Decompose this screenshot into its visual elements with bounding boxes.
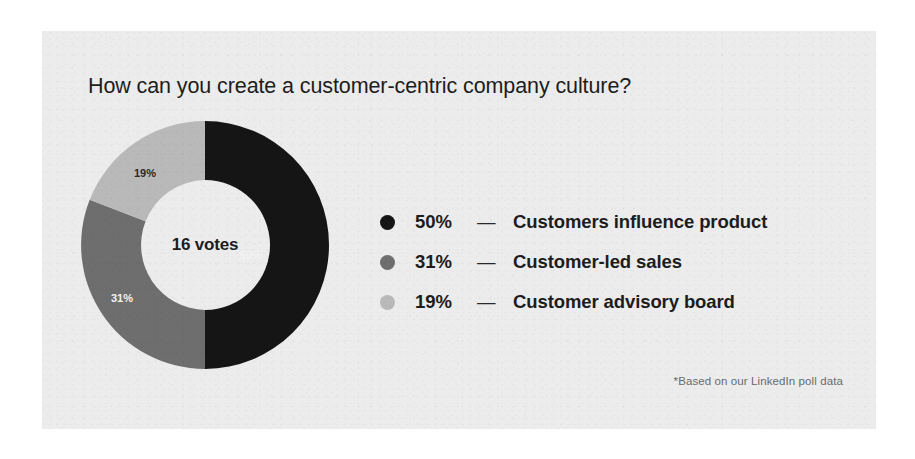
poll-card: How can you create a customer-centric co… xyxy=(42,31,876,429)
footnote-source: *Based on our LinkedIn poll data xyxy=(674,375,843,387)
legend-percent: 50% xyxy=(415,211,477,233)
donut-chart: 50% 31% 19% 16 votes xyxy=(79,119,331,371)
legend-dash: — xyxy=(477,251,513,273)
legend-label: Customer-led sales xyxy=(513,251,682,273)
legend-item-customer-advisory-board[interactable]: 19% — Customer advisory board xyxy=(380,282,850,322)
legend-percent: 19% xyxy=(415,291,477,313)
legend-label: Customer advisory board xyxy=(513,291,735,313)
legend-item-customer-led-sales[interactable]: 31% — Customer-led sales xyxy=(380,242,850,282)
donut-center-total: 16 votes xyxy=(79,119,331,371)
legend-dot-icon xyxy=(380,215,395,230)
legend-dot-icon xyxy=(380,295,395,310)
legend-percent: 31% xyxy=(415,251,477,273)
legend-label: Customers influence product xyxy=(513,211,767,233)
page-title: How can you create a customer-centric co… xyxy=(88,74,631,99)
legend-dash: — xyxy=(477,211,513,233)
legend-dash: — xyxy=(477,291,513,313)
chart-legend: 50% — Customers influence product 31% — … xyxy=(380,202,850,322)
legend-dot-icon xyxy=(380,255,395,270)
legend-item-customers-influence-product[interactable]: 50% — Customers influence product xyxy=(380,202,850,242)
